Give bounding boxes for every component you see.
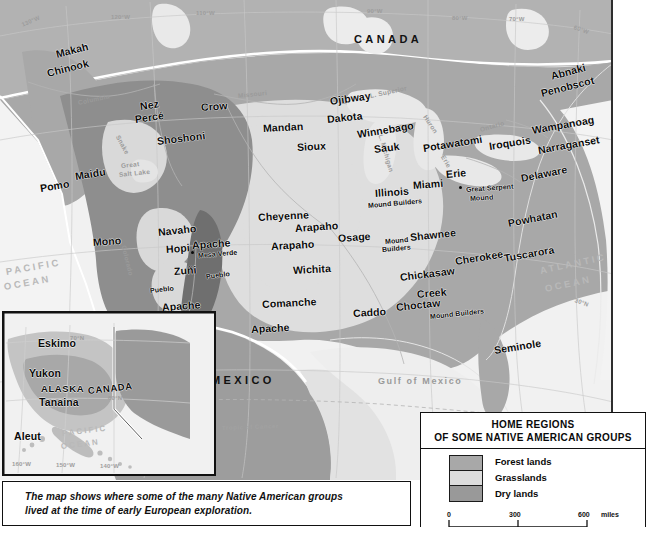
map-caption: The map shows where some of the many Nat… — [2, 481, 411, 526]
legend-body: Forest lands Grasslands Dry lands 0 300 … — [421, 449, 645, 455]
caption-line-1: The map shows where some of the many Nat… — [25, 490, 410, 504]
scale-miles-tick-0: 0 — [447, 511, 451, 518]
map-page: CANADA MEXICO PACIFIC OCEAN ATLANTIC OCE… — [0, 0, 648, 557]
legend-swatch-grasslands — [450, 471, 482, 486]
legend-label-dry-lands: Dry lands — [495, 488, 538, 499]
caption-line-2: lived at the time of early European expl… — [25, 504, 410, 518]
legend-label-grasslands: Grasslands — [495, 472, 547, 483]
legend-title-line1: HOME REGIONS — [425, 418, 641, 431]
scale-miles-unit: miles — [601, 511, 619, 518]
legend-swatches — [449, 455, 483, 502]
scale-miles-tick-300: 300 — [509, 511, 521, 518]
alaska-inset-graphics — [4, 313, 216, 476]
page-bottom-margin — [0, 527, 648, 557]
legend-swatch-dry-lands — [450, 486, 482, 501]
map-right-edge — [611, 0, 613, 481]
legend-label-forest-lands: Forest lands — [495, 456, 552, 467]
legend-title-line2: OF SOME NATIVE AMERICAN GROUPS — [425, 431, 641, 444]
scale-miles-tick-600: 600 — [578, 511, 590, 518]
legend-swatch-forest-lands — [450, 456, 482, 471]
map-right-margin — [613, 0, 648, 480]
legend-title: HOME REGIONS OF SOME NATIVE AMERICAN GRO… — [421, 413, 645, 449]
alaska-inset-map[interactable]: Eskimo Yukon ALASKA Tanaina CANADA Aleut… — [2, 311, 216, 476]
map-legend[interactable]: HOME REGIONS OF SOME NATIVE AMERICAN GRO… — [420, 412, 646, 535]
